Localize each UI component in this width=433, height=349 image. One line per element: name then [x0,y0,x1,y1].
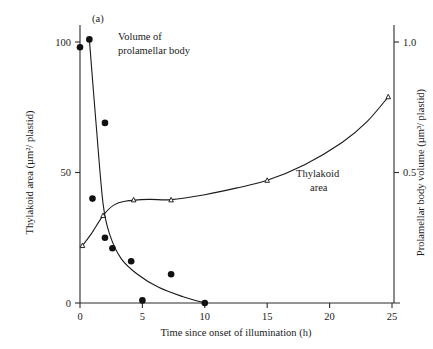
data-point-filled-circle [109,245,116,252]
annotation-thylakoid-area-line2: area [310,182,328,193]
y-axis-right-tick-label: 1.0 [403,37,416,48]
y-axis-left-title: Thylakoid area (µm²/ plastid) [24,110,36,234]
series-curve-1 [89,39,204,303]
chart-canvas: 0501000.51.00510152025Time since onset o… [0,0,433,349]
annotation-prolamellar-body-line1: Volume of [118,31,162,42]
annotation-thylakoid-area-line1: Thylakoid [296,168,340,179]
data-point-open-triangle [265,178,270,183]
annotation-prolamellar-body-line2: prolamellar body [118,45,191,56]
y-axis-right-title: Prolamellar body volume (µm³/ plastid) [415,88,427,256]
data-point-open-triangle [169,197,174,202]
x-axis-tick-label: 20 [324,311,335,322]
series-curve-2 [83,97,389,246]
x-axis-tick-label: 0 [77,311,82,322]
y-axis-left-tick-label: 0 [66,298,71,309]
y-axis-left-tick-label: 100 [55,37,71,48]
x-axis-tick-label: 15 [262,311,273,322]
data-point-filled-circle [86,36,93,43]
data-point-open-triangle [131,197,136,202]
data-point-filled-circle [128,258,135,265]
data-point-filled-circle [168,271,175,278]
data-point-filled-circle [102,120,109,127]
x-axis-tick-label: 5 [140,311,145,322]
data-point-filled-circle [102,234,109,241]
data-point-filled-circle [202,300,209,307]
x-axis-tick-label: 25 [387,311,398,322]
y-axis-left-tick-label: 50 [61,167,72,178]
x-axis-title: Time since onset of illumination (h) [161,327,312,339]
x-axis-tick-label: 10 [200,311,211,322]
figure-panel-a: 0501000.51.00510152025Time since onset o… [0,0,433,349]
data-point-filled-circle [77,44,84,51]
data-point-filled-circle [89,195,96,202]
data-point-open-triangle [386,94,391,99]
data-point-filled-circle [139,297,146,304]
panel-label: (a) [92,13,104,25]
